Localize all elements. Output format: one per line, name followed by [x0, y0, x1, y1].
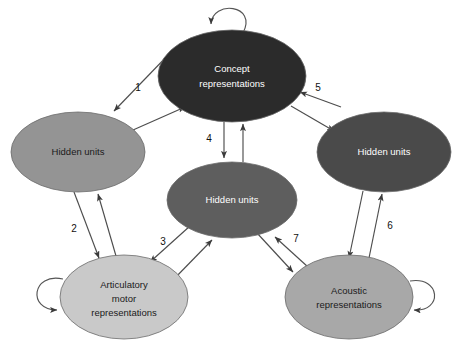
- node-articulatory-label-line-1: Articulatory: [100, 279, 148, 290]
- edge-7-arrow-to-hidden-center: [275, 237, 308, 267]
- diagram-canvas: Concept representations Hidden units Hid…: [0, 0, 464, 356]
- node-hidden-center-label: Hidden units: [206, 194, 259, 205]
- edge-6-arrow-to-hidden-right: [369, 194, 382, 258]
- edge-7-arrow-to-acoustic: [257, 233, 293, 272]
- node-acoustic-label-line-2: representations: [316, 299, 382, 310]
- edge-label-4: 4: [206, 133, 212, 144]
- node-articulatory-label-line-2: motor: [112, 293, 136, 304]
- node-concept-ellipse[interactable]: [158, 30, 306, 122]
- edge-5-hidden-right-concept: [291, 92, 341, 131]
- edge-label-6: 6: [387, 220, 393, 231]
- edge-2-arrow-to-hidden-left: [98, 194, 116, 256]
- edge-7-hidden-center-acoustic: [257, 233, 308, 272]
- node-concept-label-line-1: Concept: [214, 63, 250, 74]
- node-hidden-left-label: Hidden units: [52, 146, 105, 157]
- edge-1-arrow-to-concept: [133, 107, 185, 130]
- edge-label-3: 3: [160, 236, 166, 247]
- node-concept-label-line-2: representations: [199, 78, 265, 89]
- articulatory-self-loop: [37, 278, 63, 310]
- node-concept[interactable]: Concept representations: [158, 30, 306, 122]
- edge-label-1: 1: [135, 82, 141, 93]
- node-articulatory-label-line-3: representations: [91, 307, 157, 318]
- edge-label-2: 2: [71, 223, 77, 234]
- edge-3-arrow-to-articulatory: [150, 226, 190, 262]
- node-acoustic-label-line-1: Acoustic: [331, 285, 367, 296]
- edge-2-hidden-left-articulatory: [74, 192, 116, 258]
- node-hidden-right-label: Hidden units: [358, 146, 411, 157]
- edge-5-arrow-to-concept: [300, 92, 341, 107]
- node-acoustic[interactable]: Acoustic representations: [285, 255, 413, 339]
- edge-5-arrow-to-hidden-right: [291, 106, 334, 131]
- edge-2-arrow-to-articulatory: [74, 192, 99, 258]
- acoustic-self-loop: [410, 281, 435, 311]
- edge-label-7: 7: [293, 233, 299, 244]
- edge-6-arrow-to-acoustic: [349, 191, 363, 258]
- node-articulatory[interactable]: Articulatory motor representations: [60, 255, 188, 339]
- edge-6-acoustic-hidden-right: [349, 191, 382, 258]
- edge-4-concept-hidden-center: [224, 122, 243, 162]
- node-group: Concept representations Hidden units Hid…: [11, 30, 451, 339]
- node-hidden-left[interactable]: Hidden units: [11, 112, 145, 192]
- edge-label-5: 5: [315, 82, 321, 93]
- concept-self-loop: [211, 8, 246, 33]
- network-diagram: Concept representations Hidden units Hid…: [0, 0, 464, 356]
- node-acoustic-ellipse[interactable]: [285, 255, 413, 339]
- node-hidden-right[interactable]: Hidden units: [317, 112, 451, 192]
- node-hidden-center[interactable]: Hidden units: [167, 162, 297, 238]
